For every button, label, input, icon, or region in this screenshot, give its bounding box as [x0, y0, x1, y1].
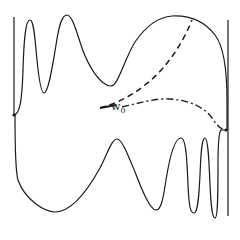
- label-symbol: w: [111, 100, 120, 113]
- point-label-w0: w0: [111, 101, 126, 115]
- dash-dot-curve: [122, 99, 227, 130]
- left-endpoint-dot: [12, 113, 15, 116]
- right-endpoint-dot: [224, 128, 227, 131]
- label-subscript: 0: [120, 106, 125, 115]
- lower-oscillating-curve: [15, 115, 227, 218]
- dashed-curve: [100, 20, 192, 108]
